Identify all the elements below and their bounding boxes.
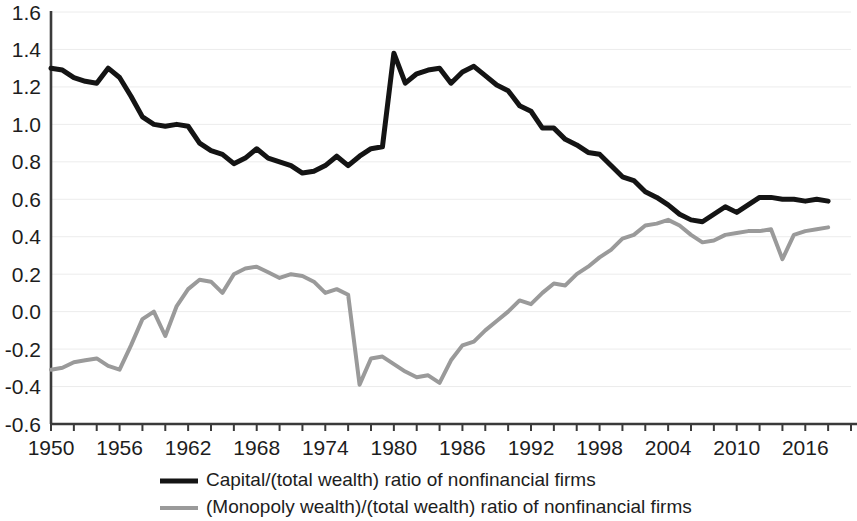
chart-legend: Capital/(total wealth) ratio of nonfinan… [160,469,692,517]
y-tick-label: 1.4 [12,38,42,61]
line-chart: 1.61.41.21.00.80.60.40.20.0-0.2-0.4-0.6 … [0,0,857,521]
x-tick-label: 2004 [645,436,692,459]
y-axis-tick-labels: 1.61.41.21.00.80.60.40.20.0-0.2-0.4-0.6 [5,1,42,436]
legend-label: Capital/(total wealth) ratio of nonfinan… [206,469,596,490]
x-tick-label: 1980 [371,436,418,459]
x-tick-label: 2016 [782,436,829,459]
y-tick-label: 0.6 [12,188,41,211]
x-tick-label: 2010 [713,436,760,459]
y-tick-label: -0.4 [5,375,42,398]
chart-container: 1.61.41.21.00.80.60.40.20.0-0.2-0.4-0.6 … [0,0,857,521]
x-tick-label: 1992 [508,436,555,459]
x-tick-label: 1974 [302,436,349,459]
legend-label: (Monopoly wealth)/(total wealth) ratio o… [206,496,692,517]
y-tick-label: -0.2 [5,338,41,361]
y-tick-label: -0.6 [5,413,41,436]
x-tick-label: 1998 [576,436,623,459]
x-tick-label: 1962 [165,436,212,459]
y-tick-label: 1.0 [12,113,41,136]
x-tick-label: 1950 [28,436,75,459]
x-tick-label: 1956 [96,436,143,459]
y-tick-label: 0.0 [12,300,41,323]
grid-lines [51,12,851,387]
y-tick-label: 0.2 [12,263,41,286]
series-line [51,220,828,385]
data-series-group [51,53,828,384]
y-tick-label: 0.8 [12,150,41,173]
y-tick-label: 1.2 [12,75,41,98]
x-axis [50,424,857,431]
series-line [51,53,828,222]
x-tick-label: 1986 [439,436,486,459]
x-tick-label: 1968 [233,436,280,459]
x-axis-tick-labels: 1950195619621968197419801986199219982004… [28,436,829,459]
y-tick-label: 0.4 [12,225,42,248]
y-tick-label: 1.6 [12,1,41,24]
